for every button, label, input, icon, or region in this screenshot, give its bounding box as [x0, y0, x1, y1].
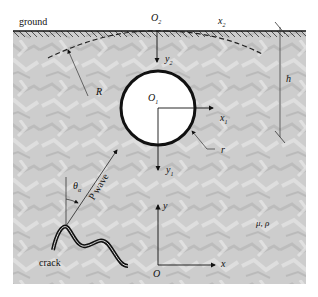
diagram-canvas: [0, 0, 318, 297]
y1-label: y1: [166, 164, 173, 177]
y-label: y: [163, 200, 167, 211]
crack-label: crack: [39, 257, 61, 268]
diagram-figure: ground O2 x2 y2 O1 x1 y1 R r h θα P wave…: [0, 0, 318, 297]
theta-sub: α: [78, 187, 81, 193]
x1-sub: 1: [224, 119, 227, 125]
O2-label: O2: [151, 12, 161, 25]
O1-sub: 1: [155, 99, 158, 105]
y2-label: y2: [165, 53, 172, 66]
O1-label: O1: [148, 92, 158, 105]
O2-sub: 2: [158, 19, 161, 25]
theta-label: θα: [73, 180, 81, 193]
ground-hatch: [13, 31, 306, 37]
ground-label: ground: [19, 16, 47, 27]
x2-sub: 2: [222, 22, 225, 28]
medium-label: μ, ρ: [256, 218, 269, 228]
O-label: O: [153, 268, 160, 279]
R-label: R: [96, 86, 102, 97]
x2-label: x2: [218, 15, 225, 28]
y2-sub: 2: [169, 60, 172, 66]
x-label: x: [221, 258, 225, 269]
h-label: h: [286, 73, 291, 84]
y1-sub: 1: [170, 171, 173, 177]
x1-label: x1: [220, 112, 227, 125]
r-label: r: [221, 144, 225, 155]
rock-medium: [13, 31, 306, 284]
